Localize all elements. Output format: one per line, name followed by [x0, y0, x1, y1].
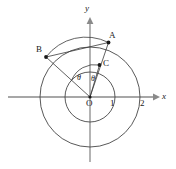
point-label-A: A [109, 31, 116, 40]
angle-label-theta-right: θ [91, 75, 95, 83]
point-B-dot [44, 55, 48, 59]
point-C-dot [98, 63, 102, 67]
angle-label-theta-left: θ [77, 74, 81, 82]
x-tick-label-2: 2 [140, 99, 145, 108]
segment-AB [46, 43, 109, 58]
point-A-dot [107, 41, 111, 45]
x-axis-label: x [162, 92, 166, 101]
arc-BA [46, 37, 109, 57]
geometry-figure [0, 0, 176, 169]
point-label-C: C [103, 59, 109, 68]
x-tick-label-1: 1 [110, 99, 115, 108]
point-label-B: B [36, 45, 42, 54]
origin-label: O [86, 99, 93, 108]
y-axis-label: y [85, 4, 89, 13]
segment-OB [46, 57, 90, 97]
x-axis [8, 94, 160, 101]
figure-canvas: A B C O θ θ 1 2 x y [0, 0, 176, 169]
